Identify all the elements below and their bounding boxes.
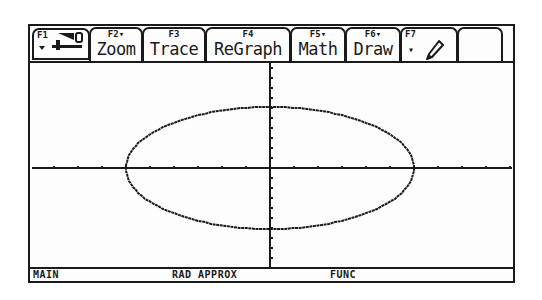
tab-f2-zoom[interactable]: F2▾ Zoom bbox=[89, 27, 143, 61]
tools-icon bbox=[36, 31, 86, 51]
tab-f7-pen[interactable]: F7 ▾ bbox=[400, 27, 458, 61]
f7-key-label: F7 bbox=[405, 29, 416, 40]
axes bbox=[32, 63, 512, 269]
trace-label: Trace bbox=[150, 40, 199, 59]
tab-f6-draw[interactable]: F6▾ Draw bbox=[345, 27, 401, 61]
draw-label: Draw bbox=[354, 40, 393, 59]
tab-f3-trace[interactable]: F3 Trace bbox=[142, 27, 206, 61]
status-graph-mode: FUNC bbox=[330, 269, 356, 281]
tab-f4-regraph[interactable]: F4 ReGraph bbox=[205, 27, 291, 61]
status-folder: MAIN bbox=[33, 269, 59, 281]
status-angle-mode: RAD APPROX bbox=[172, 269, 237, 281]
status-bar: MAIN RAD APPROX FUNC bbox=[30, 267, 513, 281]
dropdown-caret-icon: ▾ bbox=[408, 45, 414, 55]
calculator-screen: F1 F2▾ Zoom F3 Trace F4 ReGraph F5▾ Math bbox=[28, 24, 515, 283]
pencil-icon bbox=[426, 40, 444, 60]
function-key-toolbar: F1 F2▾ Zoom F3 Trace F4 ReGraph F5▾ Math bbox=[30, 26, 513, 63]
regraph-label: ReGraph bbox=[214, 40, 282, 59]
f7-content: ▾ bbox=[408, 40, 444, 60]
tab-f8-empty[interactable] bbox=[457, 27, 503, 61]
graph-area[interactable] bbox=[30, 63, 513, 269]
math-label: Math bbox=[299, 40, 338, 59]
tab-f5-math[interactable]: F5▾ Math bbox=[290, 27, 346, 61]
zoom-label: Zoom bbox=[97, 40, 136, 59]
tab-f1-tools[interactable]: F1 bbox=[32, 28, 90, 60]
